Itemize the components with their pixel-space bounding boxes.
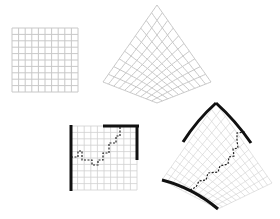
square-grid <box>12 28 78 92</box>
curved-grid-with-path <box>162 103 272 209</box>
curved-staircase-path <box>190 132 245 190</box>
curved-grid <box>103 5 211 103</box>
figure-canvas <box>0 0 280 219</box>
boundary-top-right <box>216 103 251 143</box>
square-grid-with-path <box>71 125 139 191</box>
